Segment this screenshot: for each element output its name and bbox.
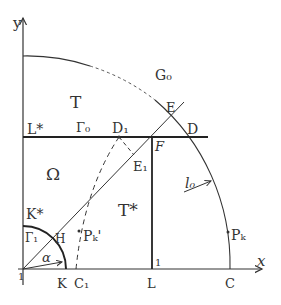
label-d1: D₁ <box>112 120 129 136</box>
label-c1: C₁ <box>74 276 89 291</box>
label-g0: G₀ <box>155 67 172 83</box>
label-k-star: K* <box>26 206 43 222</box>
label-d: D <box>187 121 198 137</box>
label-h: H <box>55 232 65 246</box>
dashed-d1-e1 <box>119 137 134 155</box>
label-l0: l₀ <box>185 175 195 191</box>
origin-label: 1 <box>18 271 24 282</box>
label-e: E <box>166 100 176 115</box>
label-gamma0: Γ₀ <box>76 120 90 135</box>
dashed-curve-c1-d1 <box>76 137 119 269</box>
label-l: L <box>147 276 156 291</box>
diagram-canvas: y x 1 T T* Ω G₀ Γ₀ Γ₁ l₀ L* D₁ F E D E₁ … <box>0 0 281 305</box>
label-e1: E₁ <box>133 159 148 174</box>
region-t: T <box>70 92 82 112</box>
label-k: K <box>57 276 67 291</box>
label-f: F <box>154 139 165 154</box>
label-pk-prime: Pₖ' <box>83 228 101 244</box>
x-axis-label: x <box>257 252 266 270</box>
region-t-star: T* <box>118 200 138 220</box>
point-pk <box>227 231 230 234</box>
arc-g0-faint <box>90 66 155 100</box>
label-alpha: α <box>42 250 51 265</box>
y-axis-label: y <box>12 14 22 32</box>
label-pk: Pₖ <box>231 227 246 243</box>
label-l-star: L* <box>27 121 43 137</box>
region-omega: Ω <box>46 164 60 184</box>
point-pk-prime <box>78 230 81 233</box>
diagram: y x 1 T T* Ω G₀ Γ₀ Γ₁ l₀ L* D₁ F E D E₁ … <box>0 0 281 305</box>
label-gamma1: Γ₁ <box>25 231 38 245</box>
label-c: C <box>225 276 235 291</box>
arc-g0 <box>23 56 90 66</box>
unit-mark: 1 <box>155 257 161 268</box>
diagonal-line <box>23 102 184 269</box>
